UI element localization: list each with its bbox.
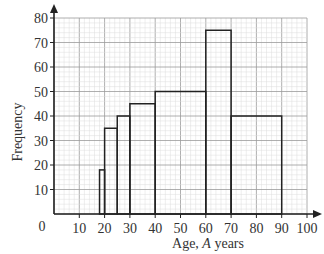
x-axis-label: Age, A years xyxy=(172,236,244,251)
y-tick-label: 30 xyxy=(34,134,48,149)
x-tick-label: 40 xyxy=(148,221,162,236)
y-tick-label: 70 xyxy=(34,36,48,51)
tick-labels: 10203040506070809010010203040506070800 xyxy=(34,11,318,236)
x-tick-label: 70 xyxy=(224,221,238,236)
x-tick-label: 100 xyxy=(297,221,318,236)
histogram-bar xyxy=(100,170,105,214)
x-axis-arrow-icon xyxy=(313,210,322,218)
y-tick-label: 20 xyxy=(34,158,48,173)
x-tick-label: 80 xyxy=(249,221,263,236)
x-tick-label: 10 xyxy=(72,221,86,236)
histogram-chart: 10203040506070809010010203040506070800 F… xyxy=(0,0,324,254)
y-tick-label: 50 xyxy=(34,85,48,100)
y-axis-arrow-icon xyxy=(50,4,58,13)
x-tick-label: 60 xyxy=(199,221,213,236)
histogram-bar xyxy=(130,104,155,214)
x-tick-label: 90 xyxy=(275,221,289,236)
y-axis-label: Frequency xyxy=(10,102,25,161)
y-tick-label: 10 xyxy=(34,183,48,198)
x-tick-label: 30 xyxy=(123,221,137,236)
y-tick-label: 60 xyxy=(34,60,48,75)
histogram-bar xyxy=(105,128,118,214)
x-tick-label: 50 xyxy=(174,221,188,236)
y-tick-label: 40 xyxy=(34,109,48,124)
y-tick-label: 80 xyxy=(34,11,48,26)
origin-label: 0 xyxy=(39,219,46,234)
histogram-bar xyxy=(206,30,231,214)
x-tick-label: 20 xyxy=(98,221,112,236)
